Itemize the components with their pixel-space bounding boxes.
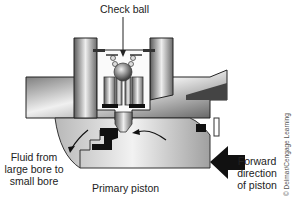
label-forward-line1: Forward	[235, 155, 279, 167]
label-fluid-line2: large bore to	[2, 163, 66, 175]
check-ball-leader-arrow	[120, 17, 126, 57]
check-ball	[114, 63, 132, 81]
copyright-notice: © Delmar/Cengage Learning	[283, 113, 290, 196]
label-fluid-line1: Fluid from	[2, 151, 66, 163]
label-primary-piston: Primary piston	[92, 182, 159, 194]
label-fluid-line3: small bore	[2, 175, 66, 187]
label-forward-direction: Forward direction of piston	[235, 155, 279, 191]
label-fluid-flow: Fluid from large bore to small bore	[2, 151, 66, 187]
label-forward-line3: of piston	[235, 179, 279, 191]
label-check-ball: Check ball	[100, 3, 149, 15]
primary-piston	[55, 118, 210, 168]
label-forward-line2: direction	[235, 167, 279, 179]
